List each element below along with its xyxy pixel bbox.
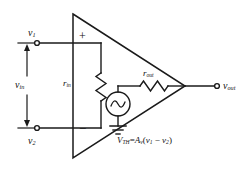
ac-source-sine-wave <box>111 101 125 107</box>
r-in-resistor-zigzag <box>96 73 106 101</box>
v-out-label: vout <box>223 81 235 92</box>
v-in-arrowhead-up <box>24 44 30 51</box>
v-in-label: vin <box>15 80 24 91</box>
circuit-diagram: v1 v2 vin vout + − rin rout VTH=Av(v1 − … <box>0 0 247 172</box>
v-in-arrowhead-down <box>24 120 30 127</box>
circuit-canvas <box>0 0 247 172</box>
vout-terminal-node <box>215 84 220 89</box>
v2-label: v2 <box>28 136 36 147</box>
thevenin-equation: VTH=Av(v1 − v2) <box>117 136 172 146</box>
r-out-label: rout <box>143 69 154 79</box>
v1-terminal-node <box>35 41 40 46</box>
r-in-label: rin <box>63 79 71 89</box>
v1-label: v1 <box>28 28 36 39</box>
inverting-input-minus-sign: − <box>79 122 86 135</box>
r-out-resistor-zigzag <box>140 81 168 91</box>
noninverting-input-plus-sign: + <box>79 30 86 42</box>
v2-terminal-node <box>35 126 40 131</box>
